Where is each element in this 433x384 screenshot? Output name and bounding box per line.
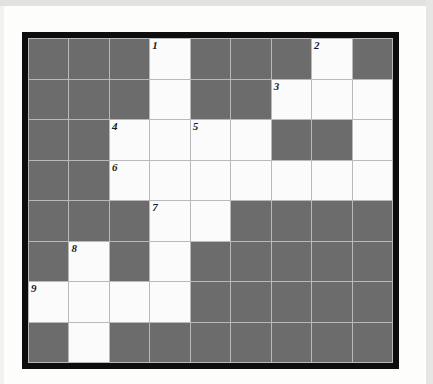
grid-cell-block bbox=[69, 80, 108, 120]
clue-number: 2 bbox=[314, 39, 320, 51]
grid-cell-open[interactable]: 7 bbox=[150, 201, 189, 241]
grid-cell-open[interactable] bbox=[231, 120, 270, 160]
grid-cell-open[interactable] bbox=[69, 323, 108, 363]
grid-cell-block bbox=[231, 242, 270, 282]
grid-cell-open[interactable]: 5 bbox=[191, 120, 230, 160]
grid-cell-block bbox=[110, 80, 149, 120]
grid-cell-block bbox=[150, 323, 189, 363]
grid-cell-block bbox=[29, 39, 68, 79]
grid-cell-open[interactable]: 1 bbox=[150, 39, 189, 79]
grid-cell-open[interactable] bbox=[191, 161, 230, 201]
clue-number: 5 bbox=[193, 120, 199, 132]
page-background: 123456789 bbox=[0, 0, 433, 384]
grid-cell-open[interactable] bbox=[150, 120, 189, 160]
grid-cell-block bbox=[191, 39, 230, 79]
grid-cell-block bbox=[272, 120, 311, 160]
grid-cell-open[interactable]: 3 bbox=[272, 80, 311, 120]
grid-cell-open[interactable] bbox=[150, 282, 189, 322]
grid-cell-block bbox=[272, 39, 311, 79]
grid-cell-block bbox=[312, 323, 351, 363]
grid-cell-block bbox=[272, 282, 311, 322]
grid-cell-block bbox=[231, 201, 270, 241]
clue-number: 1 bbox=[152, 39, 158, 51]
grid-cell-block bbox=[69, 201, 108, 241]
scan-edge-left bbox=[0, 0, 4, 384]
grid-cell-open[interactable] bbox=[272, 161, 311, 201]
clue-number: 9 bbox=[31, 282, 37, 294]
grid-cell-block bbox=[29, 80, 68, 120]
grid-cell-block bbox=[353, 39, 392, 79]
clue-number: 6 bbox=[112, 161, 118, 173]
grid-cell-open[interactable] bbox=[150, 80, 189, 120]
grid-cell-block bbox=[272, 201, 311, 241]
grid-cell-block bbox=[353, 201, 392, 241]
scan-edge-right bbox=[426, 0, 433, 384]
grid-cell-block bbox=[29, 323, 68, 363]
grid-cell-block bbox=[231, 39, 270, 79]
grid-cell-block bbox=[353, 242, 392, 282]
grid-cell-block bbox=[272, 323, 311, 363]
grid-cell-block bbox=[29, 161, 68, 201]
clue-number: 7 bbox=[152, 201, 158, 213]
clue-number: 3 bbox=[274, 80, 280, 92]
grid-cell-open[interactable] bbox=[69, 282, 108, 322]
grid-cell-block bbox=[272, 242, 311, 282]
grid-cell-block bbox=[110, 323, 149, 363]
grid-cell-open[interactable]: 8 bbox=[69, 242, 108, 282]
grid-cell-open[interactable] bbox=[150, 161, 189, 201]
grid-cell-open[interactable]: 9 bbox=[29, 282, 68, 322]
grid-cell-block bbox=[191, 242, 230, 282]
grid-cell-block bbox=[312, 120, 351, 160]
clue-number: 8 bbox=[71, 242, 77, 254]
grid-cell-block bbox=[29, 242, 68, 282]
grid-cell-block bbox=[312, 201, 351, 241]
grid-cell-block bbox=[353, 282, 392, 322]
grid-cell-open[interactable] bbox=[312, 80, 351, 120]
scan-edge-top bbox=[0, 0, 433, 6]
grid-cell-block bbox=[231, 282, 270, 322]
grid-cell-block bbox=[231, 80, 270, 120]
grid-cell-open[interactable] bbox=[353, 120, 392, 160]
grid-cell-open[interactable] bbox=[312, 161, 351, 201]
grid-cell-open[interactable] bbox=[110, 282, 149, 322]
grid-cell-block bbox=[312, 242, 351, 282]
grid-cell-block bbox=[191, 282, 230, 322]
crossword-frame: 123456789 bbox=[22, 32, 399, 369]
crossword-grid[interactable]: 123456789 bbox=[28, 38, 393, 363]
grid-cell-block bbox=[110, 242, 149, 282]
grid-cell-block bbox=[29, 201, 68, 241]
grid-cell-block bbox=[191, 80, 230, 120]
grid-cell-open[interactable] bbox=[231, 161, 270, 201]
grid-cell-block bbox=[69, 120, 108, 160]
grid-cell-block bbox=[353, 323, 392, 363]
grid-cell-open[interactable] bbox=[191, 201, 230, 241]
grid-cell-open[interactable]: 2 bbox=[312, 39, 351, 79]
grid-cell-open[interactable] bbox=[150, 242, 189, 282]
grid-cell-block bbox=[69, 39, 108, 79]
grid-cell-block bbox=[231, 323, 270, 363]
grid-cell-block bbox=[69, 161, 108, 201]
grid-cell-block bbox=[191, 323, 230, 363]
clue-number: 4 bbox=[112, 120, 118, 132]
grid-cell-block bbox=[29, 120, 68, 160]
grid-cell-block bbox=[312, 282, 351, 322]
grid-cell-open[interactable] bbox=[353, 161, 392, 201]
grid-cell-block bbox=[110, 39, 149, 79]
grid-cell-open[interactable]: 6 bbox=[110, 161, 149, 201]
grid-cell-open[interactable] bbox=[353, 80, 392, 120]
grid-cell-open[interactable]: 4 bbox=[110, 120, 149, 160]
grid-cell-block bbox=[110, 201, 149, 241]
